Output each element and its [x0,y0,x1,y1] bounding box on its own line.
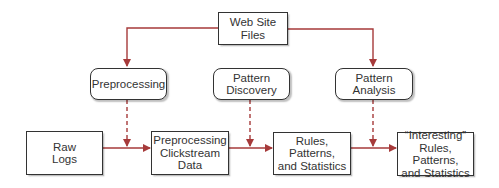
preprocessing-clickstream-data-box: Preprocessing Clickstream Data [151,131,229,175]
preprocessing-step: Preprocessing [90,68,167,100]
rules-patterns-statistics-box: Rules, Patterns, and Statistics [273,132,351,175]
pattern-discovery-step: Pattern Discovery [213,68,290,100]
pattern-analysis-step: Pattern Analysis [335,68,413,100]
interesting-rules-box: “Interesting” Rules, Patterns, and Stati… [397,132,474,176]
web-site-files-box: Web Site Files [218,12,288,45]
raw-logs-box: Raw Logs [26,131,103,175]
